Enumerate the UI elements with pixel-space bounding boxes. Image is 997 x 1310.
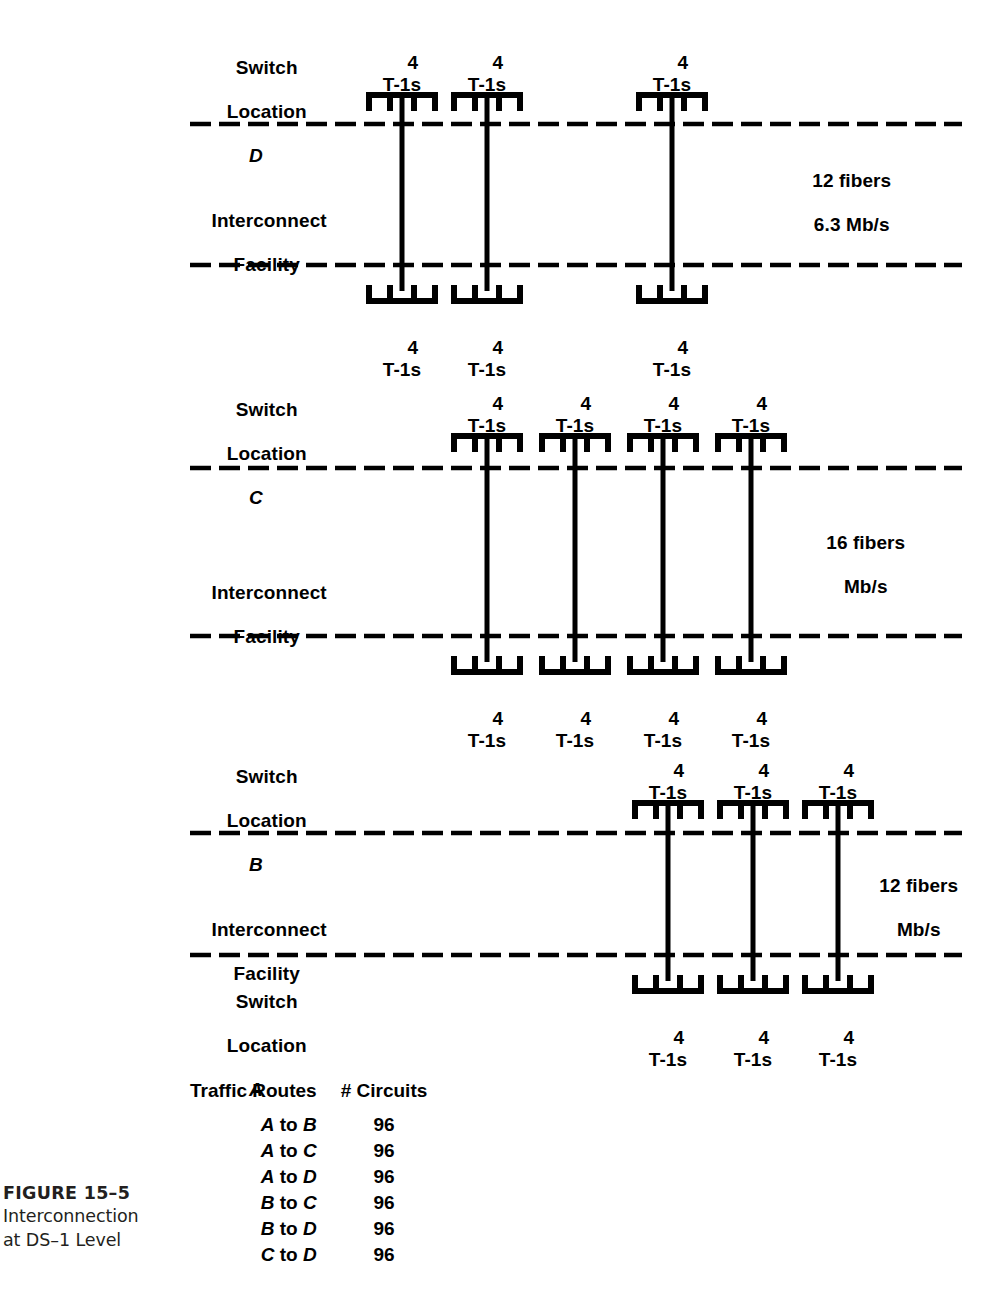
- route-connector: to: [280, 1218, 298, 1239]
- table-header-row: Traffic Routes # Circuits: [190, 1080, 427, 1111]
- mux-caption-c-top-2: 4T-1s: [535, 371, 615, 459]
- switch-location-letter: C: [196, 487, 316, 509]
- mux-unit: T-1s: [468, 415, 506, 436]
- mux-unit: T-1s: [383, 359, 421, 380]
- route-connector: to: [280, 1114, 298, 1135]
- interconnect-facility-label-d: Interconnect Facility: [190, 188, 322, 298]
- table-row: B to D 96: [190, 1216, 427, 1242]
- route-from: A: [261, 1114, 275, 1135]
- mux-caption-d-top-2: 4T-1s: [447, 30, 527, 118]
- route-connector: to: [280, 1192, 298, 1213]
- switch-location-line2: Location: [227, 443, 307, 464]
- mux-unit: T-1s: [653, 74, 691, 95]
- figure-caption: FIGURE 15–5 Interconnection at DS–1 Leve…: [3, 1182, 178, 1252]
- figure-description-line2: at DS–1 Level: [3, 1229, 178, 1252]
- mux-count: 4: [492, 393, 503, 414]
- route-from: B: [261, 1218, 275, 1239]
- mux-count: 4: [407, 337, 418, 358]
- switch-location-label-b: Switch Location B: [196, 744, 316, 920]
- route-to: C: [303, 1192, 317, 1213]
- route-to: D: [303, 1166, 317, 1187]
- column-header-circuits: # Circuits: [317, 1080, 428, 1111]
- route-connector: to: [280, 1140, 298, 1161]
- switch-location-line1: Switch: [236, 766, 298, 787]
- mux-count: 4: [843, 1027, 854, 1048]
- table-row: A to D 96: [190, 1163, 427, 1189]
- facility-line2: Facility: [234, 626, 300, 647]
- mux-unit: T-1s: [734, 782, 772, 803]
- mux-unit: T-1s: [468, 730, 506, 751]
- switch-location-line1: Switch: [236, 57, 298, 78]
- switch-location-letter: D: [196, 145, 316, 167]
- switch-location-line2: Location: [227, 810, 307, 831]
- interconnect-facility-label-c: Interconnect Facility: [190, 560, 322, 670]
- route-from: A: [261, 1140, 275, 1161]
- mux-count: 4: [407, 52, 418, 73]
- fiber-rate: 6.3 Mb/s: [814, 214, 890, 235]
- route-cell: B to D: [190, 1216, 317, 1242]
- table-row: B to C 96: [190, 1190, 427, 1216]
- route-from: A: [261, 1166, 275, 1187]
- mux-unit: T-1s: [649, 782, 687, 803]
- figure-canvas: Switch Location D Interconnect Facility …: [0, 0, 997, 1310]
- mux-caption-a-bottom-3: 4T-1s: [798, 1005, 878, 1093]
- switch-location-letter: B: [196, 854, 316, 876]
- mux-caption-c-top-3: 4T-1s: [623, 371, 703, 459]
- circuits-cell: 96: [317, 1163, 428, 1189]
- mux-count: 4: [756, 393, 767, 414]
- fiber-count: 12 fibers: [879, 875, 958, 896]
- fiber-rate: Mb/s: [844, 576, 888, 597]
- mux-unit: T-1s: [556, 415, 594, 436]
- mux-caption-c-bottom-1: 4T-1s: [447, 686, 527, 774]
- circuits-cell: 96: [317, 1137, 428, 1163]
- fiber-capacity-label-c: 16 fibers Mb/s: [790, 510, 920, 620]
- mux-unit: T-1s: [649, 1049, 687, 1070]
- mux-caption-c-bottom-2: 4T-1s: [535, 686, 615, 774]
- figure-number: FIGURE 15–5: [3, 1182, 178, 1205]
- mux-caption-c-top-1: 4T-1s: [447, 371, 527, 459]
- mux-unit: T-1s: [819, 1049, 857, 1070]
- mux-caption-a-bottom-1: 4T-1s: [628, 1005, 708, 1093]
- route-cell: A to C: [190, 1137, 317, 1163]
- route-cell: A to B: [190, 1111, 317, 1137]
- mux-count: 4: [492, 708, 503, 729]
- mux-count: 4: [843, 760, 854, 781]
- route-from: B: [261, 1192, 275, 1213]
- mux-count: 4: [580, 708, 591, 729]
- mux-unit: T-1s: [383, 74, 421, 95]
- mux-caption-b-top-1: 4T-1s: [628, 738, 708, 826]
- fiber-capacity-label-b: 12 fibers Mb/s: [843, 853, 973, 963]
- mux-caption-d-top-3: 4T-1s: [632, 30, 712, 118]
- fiber-count: 16 fibers: [826, 532, 905, 553]
- table-body: A to B 96 A to C 96 A to D 96 B to C 96 …: [190, 1111, 427, 1268]
- column-header-traffic-routes: Traffic Routes: [190, 1080, 317, 1111]
- traffic-routes-table: Traffic Routes # Circuits A to B 96 A to…: [190, 1080, 427, 1268]
- mux-caption-c-top-4: 4T-1s: [711, 371, 791, 459]
- route-to: B: [303, 1114, 317, 1135]
- route-cell: C to D: [190, 1242, 317, 1268]
- mux-caption-a-bottom-2: 4T-1s: [713, 1005, 793, 1093]
- facility-line1: Interconnect: [212, 919, 327, 940]
- mux-unit: T-1s: [556, 730, 594, 751]
- mux-unit: T-1s: [732, 415, 770, 436]
- figure-description-line1: Interconnection: [3, 1205, 178, 1228]
- route-cell: A to D: [190, 1163, 317, 1189]
- circuits-cell: 96: [317, 1111, 428, 1137]
- facility-line1: Interconnect: [212, 210, 327, 231]
- mux-count: 4: [677, 52, 688, 73]
- circuits-cell: 96: [317, 1190, 428, 1216]
- circuits-cell: 96: [317, 1242, 428, 1268]
- mux-count: 4: [668, 393, 679, 414]
- fiber-rate: Mb/s: [897, 919, 941, 940]
- table-row: A to B 96: [190, 1111, 427, 1137]
- mux-caption-b-top-3: 4T-1s: [798, 738, 878, 826]
- route-connector: to: [280, 1166, 298, 1187]
- switch-location-line1: Switch: [236, 991, 298, 1012]
- fiber-capacity-label-d: 12 fibers 6.3 Mb/s: [776, 148, 906, 258]
- route-from: C: [261, 1244, 275, 1265]
- mux-count: 4: [673, 1027, 684, 1048]
- table-row: A to C 96: [190, 1137, 427, 1163]
- mux-unit: T-1s: [734, 1049, 772, 1070]
- route-connector: to: [280, 1244, 298, 1265]
- facility-line2: Facility: [234, 254, 300, 275]
